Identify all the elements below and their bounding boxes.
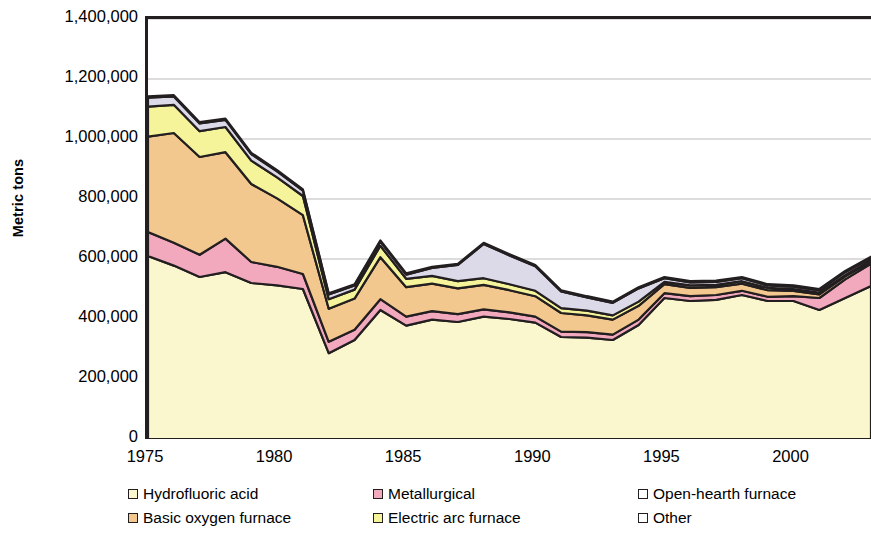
legend-swatch-icon: [128, 513, 138, 523]
y-axis-tick-label: 1,200,000: [20, 68, 138, 84]
y-axis-tick-label: 1,400,000: [20, 8, 138, 24]
x-axis-tick-label: 1995: [621, 447, 701, 466]
legend-item[interactable]: Basic oxygen furnace: [128, 510, 291, 525]
legend-swatch-icon: [373, 513, 383, 523]
legend-swatch-icon: [638, 513, 648, 523]
y-axis-tick-labels: 0200,000400,000600,000800,0001,000,0001,…: [18, 0, 138, 439]
chart-legend: Hydrofluoric acidBasic oxygen furnaceMet…: [128, 486, 871, 536]
legend-item-label: Open-hearth furnace: [653, 486, 796, 501]
legend-item[interactable]: Other: [638, 510, 692, 525]
legend-item[interactable]: Open-hearth furnace: [638, 486, 796, 501]
stacked-area-chart: Metric tons 0200,000400,000600,000800,00…: [0, 0, 871, 539]
y-axis-tick-label: 600,000: [20, 248, 138, 264]
legend-item[interactable]: Electric arc furnace: [373, 510, 521, 525]
legend-item-label: Hydrofluoric acid: [143, 486, 258, 501]
legend-item-label: Electric arc furnace: [388, 510, 521, 525]
plot-area: [145, 16, 871, 439]
y-axis-tick-label: 1,000,000: [20, 128, 138, 144]
y-axis-tick-label: 200,000: [20, 368, 138, 384]
y-axis-tick-label: 0: [20, 428, 138, 444]
legend-swatch-icon: [373, 489, 383, 499]
legend-item[interactable]: Hydrofluoric acid: [128, 486, 258, 501]
plot-svg: [148, 19, 871, 439]
x-axis-tick-label: 1985: [363, 447, 443, 466]
legend-swatch-icon: [638, 489, 648, 499]
legend-item-label: Basic oxygen furnace: [143, 510, 291, 525]
legend-swatch-icon: [128, 489, 138, 499]
x-axis-tick-labels: 197519801985199019952000: [0, 447, 871, 473]
y-axis-tick-label: 800,000: [20, 188, 138, 204]
legend-item-label: Other: [653, 510, 692, 525]
x-axis-tick-label: 1990: [492, 447, 572, 466]
y-axis-tick-label: 400,000: [20, 308, 138, 324]
x-axis-tick-label: 2000: [751, 447, 831, 466]
x-axis-tick-label: 1980: [234, 447, 314, 466]
x-axis-tick-label: 1975: [105, 447, 185, 466]
legend-item-label: Metallurgical: [388, 486, 475, 501]
legend-item[interactable]: Metallurgical: [373, 486, 475, 501]
